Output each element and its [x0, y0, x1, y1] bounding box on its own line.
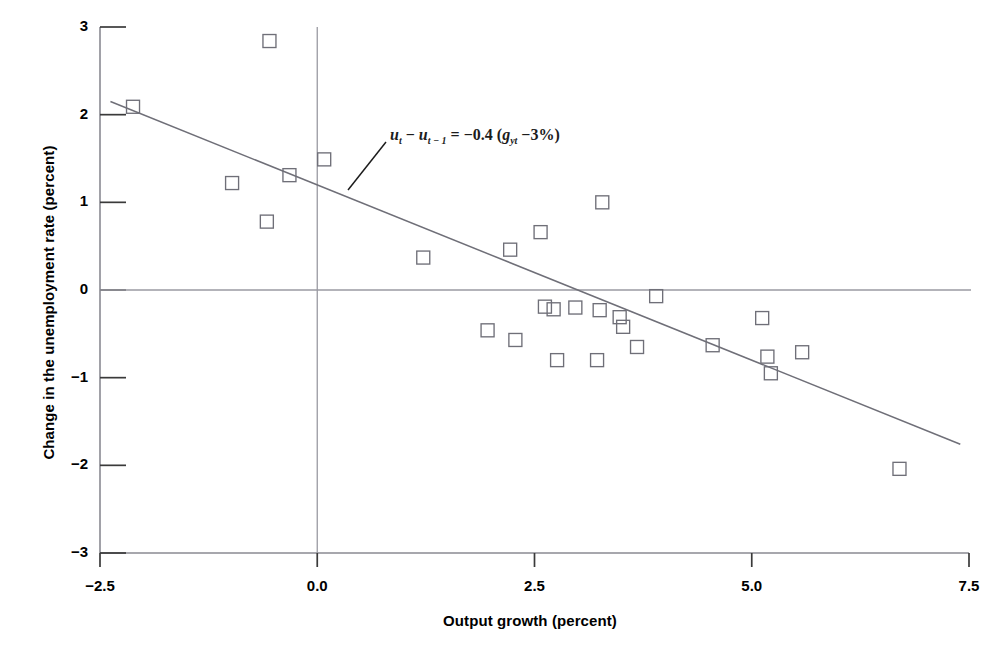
data-point: [509, 333, 522, 346]
data-point: [481, 324, 494, 337]
data-point: [761, 350, 774, 363]
plot-area: [0, 0, 1002, 647]
x-tick-label: 5.0: [722, 577, 782, 594]
regression-equation-annotation: ut − ut − 1 = −0.4 (gyt −3%): [390, 126, 560, 146]
data-point: [756, 312, 769, 325]
tick-marks: [100, 27, 969, 567]
data-point: [263, 35, 276, 48]
data-point: [534, 226, 547, 239]
data-point: [764, 367, 777, 380]
okun-law-scatter-chart: 3210−1−2−3 −2.50.02.55.07.5 Change in th…: [0, 0, 1002, 647]
eqn-equals: = −0.4 (: [447, 126, 503, 143]
data-point: [417, 251, 430, 264]
data-point: [591, 354, 604, 367]
data-point: [593, 304, 606, 317]
x-axis-title: Output growth (percent): [330, 612, 730, 629]
eqn-g: g: [502, 126, 510, 143]
data-point-markers: [127, 35, 906, 476]
data-point: [260, 215, 273, 228]
annotation-leader-line: [348, 142, 386, 190]
data-point: [631, 340, 644, 353]
x-tick-label: 2.5: [505, 577, 565, 594]
x-tick-label: −2.5: [70, 577, 130, 594]
data-point: [613, 311, 626, 324]
reference-lines: [100, 27, 971, 553]
data-point: [650, 290, 663, 303]
y-axis-title: Change in the unemployment rate (percent…: [40, 43, 57, 563]
data-point: [226, 177, 239, 190]
eqn-u2: u: [419, 126, 428, 143]
data-point: [538, 300, 551, 313]
data-point: [318, 153, 331, 166]
data-point: [706, 339, 719, 352]
data-point: [617, 320, 630, 333]
data-point: [596, 196, 609, 209]
data-point: [547, 303, 560, 316]
data-point: [893, 462, 906, 475]
x-tick-label: 0.0: [287, 577, 347, 594]
y-tick-label: 3: [42, 17, 88, 34]
eqn-tail: −3%): [517, 126, 559, 143]
data-point: [569, 301, 582, 314]
data-point: [551, 354, 564, 367]
x-tick-label: 7.5: [939, 577, 999, 594]
eqn-sub2: t − 1: [428, 135, 447, 146]
data-point: [796, 346, 809, 359]
eqn-u1: u: [390, 126, 399, 143]
regression-fit-line: [110, 102, 960, 445]
eqn-minus1: −: [402, 126, 419, 143]
data-point: [504, 243, 517, 256]
